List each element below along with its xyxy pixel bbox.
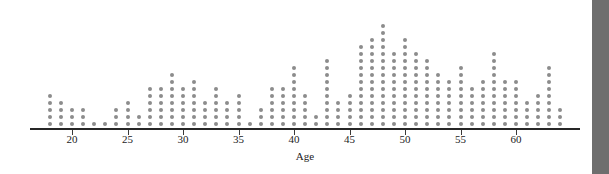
data-dot [481,101,485,105]
data-dot [325,66,329,70]
data-dot [403,80,407,84]
data-dot [370,38,374,42]
data-dot [447,122,451,126]
data-dot [414,101,418,105]
data-dot [481,115,485,119]
data-dot [381,87,385,91]
data-dot [403,59,407,63]
data-dot [359,94,363,98]
data-dot [536,94,540,98]
data-dot [314,122,318,126]
x-axis-line [30,128,580,130]
data-dot [325,80,329,84]
data-dot [481,94,485,98]
data-dot [148,122,152,126]
data-dot [59,115,63,119]
data-dot [270,122,274,126]
data-dot [303,122,307,126]
data-dot [92,122,96,126]
right-edge-band [592,0,609,174]
data-dot [148,115,152,119]
data-dot [225,115,229,119]
data-dot [481,108,485,112]
data-dot [325,87,329,91]
data-dot [370,45,374,49]
data-dot [547,80,551,84]
data-dot [447,101,451,105]
data-dot [436,115,440,119]
data-dot [192,87,196,91]
data-dot [425,101,429,105]
data-dot [59,122,63,126]
data-dot [481,87,485,91]
data-dot [292,87,296,91]
data-dot [148,108,152,112]
data-dot [459,94,463,98]
data-dot [126,115,130,119]
data-dot [170,94,174,98]
data-dot [70,115,74,119]
data-dot [470,101,474,105]
data-dot [381,52,385,56]
data-dot [170,115,174,119]
data-dot [436,108,440,112]
data-dot [425,87,429,91]
data-dot [348,101,352,105]
data-dot [536,115,540,119]
data-dot [547,66,551,70]
data-dot [514,80,518,84]
data-dot [536,122,540,126]
data-dot [114,122,118,126]
data-dot [203,115,207,119]
data-dot [381,45,385,49]
data-dot [459,122,463,126]
data-dot [514,94,518,98]
data-dot [170,73,174,77]
data-dot [292,73,296,77]
data-dot [292,94,296,98]
data-dot [359,52,363,56]
data-dot [303,108,307,112]
data-dot [414,94,418,98]
data-dot [436,101,440,105]
data-dot [470,94,474,98]
data-dot [59,101,63,105]
data-dot [381,115,385,119]
data-dot [270,108,274,112]
data-dot [536,108,540,112]
data-dot [303,115,307,119]
data-dot [359,59,363,63]
data-dot [503,80,507,84]
data-dot [370,52,374,56]
data-dot [558,108,562,112]
data-dot [348,115,352,119]
x-axis-tick-label: 55 [455,133,466,145]
data-dot [547,108,551,112]
data-dot [414,73,418,77]
data-dot [414,122,418,126]
data-dot [470,115,474,119]
data-dot [181,87,185,91]
data-dot [370,87,374,91]
data-dot [481,122,485,126]
data-dot [370,66,374,70]
data-dot [492,80,496,84]
data-dot [436,73,440,77]
data-dot [270,101,274,105]
data-dot [403,115,407,119]
data-dot [359,73,363,77]
data-dot [214,101,218,105]
data-dot [392,52,396,56]
data-dot [281,122,285,126]
data-dot [459,73,463,77]
data-dot [292,122,296,126]
data-dot [492,101,496,105]
data-dot [525,101,529,105]
data-dot [447,80,451,84]
data-dot [214,87,218,91]
data-dot [48,101,52,105]
data-dot [381,122,385,126]
data-dot [536,101,540,105]
data-dot [436,80,440,84]
data-dot [392,73,396,77]
